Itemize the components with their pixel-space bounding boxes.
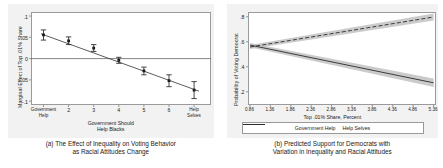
panel-a-xtick-label-2: 2 (59, 107, 79, 113)
panel-b-ytick-marks (246, 17, 248, 92)
panel-b-line-help-selves (250, 45, 434, 83)
panel-b: Probability of Voting Democrat .8 .6 .4 … (222, 0, 443, 168)
panel-a-xtick-label-7-line1: Help (178, 107, 210, 112)
panel-b-xtick-label-6: 3.86 (362, 107, 382, 112)
panel-b-xtick-label-5: 3.36 (342, 107, 362, 112)
panel-a-ytick-marks (29, 16, 31, 101)
panel-a-xtick-label-3: 3 (84, 107, 104, 113)
panel-a-error-bars (41, 30, 197, 99)
panel-b-xtick-label-7: 4.36 (382, 107, 402, 112)
panel-b-xtick-label-9: 5.36 (423, 107, 443, 112)
legend-item-help-selves[interactable]: Help Selves (342, 125, 370, 131)
panel-a-xtick-label-7-line2: Selves (178, 113, 210, 118)
panel-b-band-government-help (250, 14, 434, 49)
panel-a-xtick-label-4: 4 (109, 107, 129, 113)
panel-a-x-axis-title-line2: Help Blacks (0, 126, 222, 132)
figure-container: Marginal Effect of Top .01% Share .1 .05… (0, 0, 443, 168)
panel-b-xtick-label-0: 0.86 (240, 107, 260, 112)
panel-a-xtick-label-1-line2: Help (25, 113, 62, 118)
panel-b-band-help-selves (250, 43, 434, 87)
panel-b-legend: Government Help Help Selves (242, 122, 424, 134)
legend-item-government-help[interactable]: Government Help (295, 125, 336, 131)
panel-a-xtick-label-5: 5 (134, 107, 154, 113)
panel-a-caption-line1: (a) The Effect of Inequality on Voting B… (0, 140, 222, 148)
panel-b-line-government-help (250, 17, 434, 47)
panel-b-xtick-label-4: 2.86 (321, 107, 341, 112)
panel-b-xtick-label-3: 2.36 (301, 107, 321, 112)
panel-a-fit-line (41, 34, 199, 91)
panel-b-x-axis-title: Top .01% Share, Percent (222, 114, 443, 120)
panel-a-caption-line2: as Racial Attitudes Change (0, 148, 222, 156)
panel-a-xtick-label-6: 6 (159, 107, 179, 113)
panel-b-xtick-label-1: 1.36 (260, 107, 280, 112)
panel-b-caption-line2: Variation in Inequality and Racial Attit… (222, 148, 443, 156)
legend-label-government-help: Government Help (295, 125, 336, 131)
panel-b-xtick-label-2: 1.86 (280, 107, 300, 112)
panel-a-xtick-label-1-line1: Government (25, 107, 62, 112)
panel-b-caption-line1: (b) Predicted Support for Democrats with (222, 140, 443, 148)
legend-solid-line-icon (243, 123, 265, 126)
panel-b-xtick-label-8: 4.86 (403, 107, 423, 112)
legend-label-help-selves: Help Selves (342, 125, 370, 131)
panel-a: Marginal Effect of Top .01% Share .1 .05… (0, 0, 222, 168)
